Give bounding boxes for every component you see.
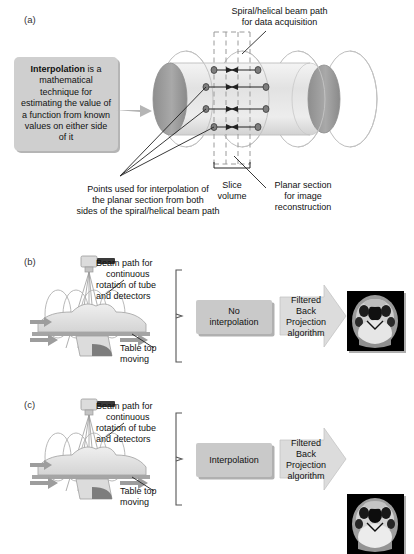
ct-head-render-b [347, 291, 404, 351]
beam-path-line1: Spiral/helical beam path [212, 6, 347, 17]
process-b-l1: No [209, 306, 258, 317]
leader-line-beam-path [242, 31, 266, 54]
beam-c-l2: continuous [96, 412, 174, 423]
planar-section-caption: Planar section for image reconstruction [262, 180, 344, 213]
beam-c-l1: Beam path for [96, 401, 174, 412]
patient-body [38, 447, 146, 475]
alg-b-l2: Projection [282, 317, 330, 328]
table-top-caption-b: Table top moving [120, 343, 180, 365]
beam-b-l3: rotation of tube [96, 280, 174, 291]
slice-volume-caption: Slice volume [208, 180, 256, 202]
patient-body [38, 304, 146, 332]
process-b-l2: interpolation [209, 317, 258, 328]
points-caption-line3: sides of the spiral/helical beam path [48, 206, 248, 217]
alg-c-l1: Filtered Back [282, 438, 330, 460]
planar-line1: Planar section [262, 180, 344, 191]
process-box-b: No interpolation [196, 300, 272, 334]
algorithm-caption-c: Filtered Back Projection algorithm [282, 438, 330, 482]
beam-b-l4: and detectors [96, 291, 174, 302]
grouping-bracket-c [172, 411, 188, 507]
alg-b-l1: Filtered Back [282, 295, 330, 317]
table-b-l1: Table top [120, 343, 180, 354]
alg-c-l3: algorithm [282, 471, 330, 482]
beam-c-l4: and detectors [96, 434, 174, 445]
table-c-l2: moving [120, 497, 180, 508]
process-box-c: Interpolation [196, 443, 272, 477]
alg-c-l2: Projection [282, 460, 330, 471]
panel-label-a: (a) [24, 14, 36, 25]
ct-result-image-c [347, 494, 404, 554]
table-b-l2: moving [120, 354, 180, 365]
ct-head-render-c [347, 494, 404, 554]
cylinder-cap-right [308, 65, 340, 133]
table-c-l1: Table top [120, 486, 180, 497]
slice-line1: Slice [208, 180, 256, 191]
ct-result-image-b [347, 291, 404, 351]
callout-term: Interpolation [30, 64, 85, 74]
beam-path-caption-a: Spiral/helical beam path for data acquis… [212, 6, 347, 28]
slice-line2: volume [208, 191, 256, 202]
beam-b-l2: continuous [96, 269, 174, 280]
callout-body: is a mathematical technique for estimati… [21, 64, 111, 142]
grouping-bracket-b [172, 268, 188, 364]
beam-b-l1: Beam path for [96, 258, 174, 269]
table-top-caption-c: Table top moving [120, 486, 180, 508]
beam-path-caption-c: Beam path for continuous rotation of tub… [96, 401, 174, 445]
alg-b-l3: algorithm [282, 328, 330, 339]
helical-scan-cylinder-diagram [138, 26, 368, 181]
beam-path-caption-b: Beam path for continuous rotation of tub… [96, 258, 174, 302]
process-c-l1: Interpolation [209, 455, 259, 466]
algorithm-caption-b: Filtered Back Projection algorithm [282, 295, 330, 339]
cylinder-body [170, 63, 328, 135]
planar-line2: for image [262, 191, 344, 202]
interpolation-definition-callout: Interpolation is a mathematical techniqu… [14, 57, 118, 151]
planar-line3: reconstruction [262, 202, 344, 213]
beam-c-l3: rotation of tube [96, 423, 174, 434]
